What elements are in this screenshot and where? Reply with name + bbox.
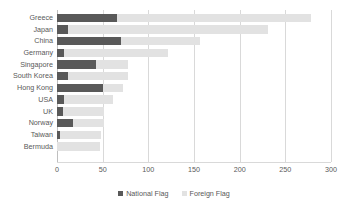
plot-area bbox=[57, 10, 331, 162]
bar-row bbox=[57, 59, 331, 71]
bar-segment-foreign-flag bbox=[96, 60, 128, 68]
category-label-germany: Germany bbox=[0, 47, 53, 59]
bar-stack-greece bbox=[57, 14, 311, 22]
bar-segment-foreign-flag bbox=[57, 142, 100, 150]
foreign-flag-swatch bbox=[182, 191, 187, 196]
bar-segment-foreign-flag bbox=[117, 14, 311, 22]
bar-segment-national-flag bbox=[57, 84, 103, 92]
bar-rows bbox=[57, 10, 331, 162]
bar-row bbox=[57, 82, 331, 94]
bar-row bbox=[57, 24, 331, 36]
bar-segment-national-flag bbox=[57, 95, 64, 103]
bar-row bbox=[57, 70, 331, 82]
stacked-bar-chart: GreeceJapanChinaGermanySingaporeSouth Ko… bbox=[0, 0, 348, 207]
x-tick-label-250: 250 bbox=[279, 164, 291, 176]
bar-segment-national-flag bbox=[57, 72, 68, 80]
bar-stack-hong-kong bbox=[57, 84, 123, 92]
x-axis-line bbox=[57, 162, 331, 163]
category-label-japan: Japan bbox=[0, 24, 53, 36]
bar-row bbox=[57, 94, 331, 106]
bar-stack-bermuda bbox=[57, 142, 100, 150]
bar-stack-germany bbox=[57, 49, 168, 57]
category-label-norway: Norway bbox=[0, 117, 53, 129]
chart-legend: National FlagForeign Flag bbox=[0, 186, 348, 200]
bar-segment-national-flag bbox=[57, 14, 117, 22]
y-axis-category-labels: GreeceJapanChinaGermanySingaporeSouth Ko… bbox=[0, 10, 53, 162]
x-tick-label-50: 50 bbox=[99, 164, 107, 176]
bar-segment-foreign-flag bbox=[60, 131, 101, 139]
x-tick-label-150: 150 bbox=[188, 164, 200, 176]
bar-segment-foreign-flag bbox=[121, 37, 200, 45]
bar-segment-foreign-flag bbox=[73, 119, 104, 127]
bar-stack-norway bbox=[57, 119, 104, 127]
bar-row bbox=[57, 12, 331, 24]
category-label-usa: USA bbox=[0, 94, 53, 106]
gridline-300 bbox=[331, 10, 332, 162]
category-label-china: China bbox=[0, 35, 53, 47]
bar-segment-national-flag bbox=[57, 60, 96, 68]
category-label-taiwan: Taiwan bbox=[0, 129, 53, 141]
category-label-singapore: Singapore bbox=[0, 59, 53, 71]
bar-segment-national-flag bbox=[57, 119, 73, 127]
bar-segment-national-flag bbox=[57, 49, 64, 57]
bar-row bbox=[57, 47, 331, 59]
bar-segment-national-flag bbox=[57, 25, 68, 33]
bar-stack-china bbox=[57, 37, 200, 45]
national-flag-swatch bbox=[118, 191, 123, 196]
bar-segment-foreign-flag bbox=[64, 49, 167, 57]
bar-row bbox=[57, 106, 331, 118]
legend-item-foreign-flag[interactable]: Foreign Flag bbox=[182, 189, 230, 198]
bar-row bbox=[57, 129, 331, 141]
category-label-bermuda: Bermuda bbox=[0, 141, 53, 153]
bar-segment-foreign-flag bbox=[63, 107, 104, 115]
legend-label: National Flag bbox=[126, 189, 168, 198]
category-label-hong-kong: Hong Kong bbox=[0, 82, 53, 94]
bar-stack-south-korea bbox=[57, 72, 128, 80]
bar-row bbox=[57, 141, 331, 153]
bar-stack-taiwan bbox=[57, 131, 101, 139]
bar-stack-usa bbox=[57, 95, 113, 103]
category-label-south-korea: South Korea bbox=[0, 70, 53, 82]
x-tick-label-100: 100 bbox=[142, 164, 154, 176]
bar-segment-foreign-flag bbox=[64, 95, 112, 103]
bar-stack-uk bbox=[57, 107, 104, 115]
bar-stack-singapore bbox=[57, 60, 128, 68]
bar-row bbox=[57, 117, 331, 129]
x-axis-tick-labels: 050100150200250300 bbox=[57, 164, 331, 176]
x-tick-label-300: 300 bbox=[325, 164, 337, 176]
bar-stack-japan bbox=[57, 25, 268, 33]
bar-segment-national-flag bbox=[57, 37, 121, 45]
bar-segment-foreign-flag bbox=[68, 25, 268, 33]
bar-segment-foreign-flag bbox=[68, 72, 128, 80]
category-label-uk: UK bbox=[0, 106, 53, 118]
x-tick-label-0: 0 bbox=[55, 164, 59, 176]
x-tick-label-200: 200 bbox=[234, 164, 246, 176]
bar-row bbox=[57, 35, 331, 47]
bar-segment-foreign-flag bbox=[103, 84, 123, 92]
legend-label: Foreign Flag bbox=[190, 189, 230, 198]
category-label-greece: Greece bbox=[0, 12, 53, 24]
legend-item-national-flag[interactable]: National Flag bbox=[118, 189, 168, 198]
